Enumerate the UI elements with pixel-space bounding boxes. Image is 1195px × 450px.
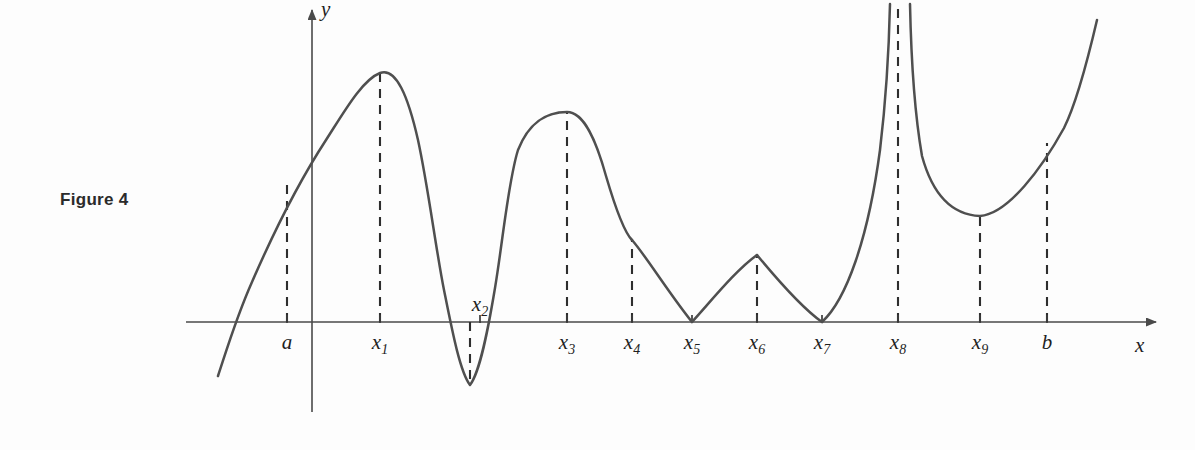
tick-label-x4: x4 [623,330,640,357]
tick-label-a: a [282,330,293,354]
tick-label-x9: x9 [971,330,988,357]
curve-segment-left-branch-through-x1-x2-x3-to-x4 [218,72,632,385]
curve-segment-asymptote-right-of-x8-down-to-x9-min-to-b [910,4,1097,216]
tick-label-b: b [1042,330,1053,354]
curve-segment-corner-x6-down-to-cusp-x7 [757,255,822,322]
tick-label-x7: x7 [813,330,831,357]
tick-label-x2: x2 [471,292,488,319]
y-axis-label: y [319,0,331,21]
tick-label-x3: x3 [558,330,575,357]
curve-segment-cusp-x7-up-asymptote-left-of-x8 [822,4,890,322]
dashed-guide-lines [287,4,1047,385]
axis-tick-labels: ax1x2x3x4x5x6x7x8x9b [282,292,1053,357]
tick-label-x8: x8 [889,330,906,357]
x-axis-label: x [1134,333,1145,357]
curve-segment-corner-x4-down-to-cusp-x5 [632,240,692,322]
function-curve [218,4,1097,385]
tick-label-x5: x5 [683,330,700,357]
tick-label-x1: x1 [371,330,388,357]
function-graph: x y ax1x2x3x4x5x6x7x8x9b [0,0,1195,450]
tick-label-x6: x6 [748,330,765,357]
curve-segment-cusp-x5-up-to-corner-x6 [692,255,757,322]
figure-container: Figure 4 x y ax1x2x3x4x5x6x7x8x9b [0,0,1195,450]
